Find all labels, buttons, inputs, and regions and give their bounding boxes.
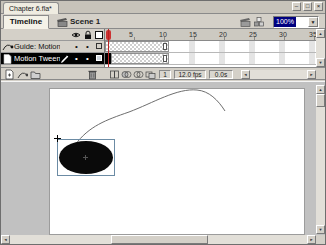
- timeline-status-bar: 1 12.0 fps 0.0s ◄ ►: [1, 67, 325, 80]
- scroll-up-icon[interactable]: ▲: [316, 29, 325, 38]
- close-button[interactable]: ×: [314, 2, 323, 11]
- span-end-marker: [163, 43, 167, 50]
- flash-document-window: Chapter 6.fla* – □ × Timeline Scene 1 10…: [0, 0, 326, 245]
- minimize-button[interactable]: –: [292, 2, 301, 11]
- timeline-scroll-left-icon[interactable]: ◄: [241, 70, 250, 79]
- insert-layer-folder-icon[interactable]: [30, 69, 41, 80]
- delete-layer-trash-icon[interactable]: [87, 69, 98, 80]
- timeline-scroll-right-icon[interactable]: ►: [307, 70, 316, 79]
- transform-center-icon[interactable]: [83, 155, 88, 160]
- outline-column-icon[interactable]: [94, 30, 104, 40]
- layer-name[interactable]: Motion Tween: [14, 54, 60, 63]
- scroll-right-icon[interactable]: ►: [307, 235, 316, 244]
- timeline-horizontal-scrollbar[interactable]: [250, 70, 307, 79]
- restore-button[interactable]: □: [303, 2, 312, 11]
- layer-lock-dot[interactable]: •: [82, 54, 93, 64]
- span-end-marker: [163, 55, 167, 62]
- zoom-value[interactable]: 100%: [274, 17, 296, 27]
- document-tab-bar: Chapter 6.fla* – □ ×: [1, 1, 325, 14]
- layer-row-motion-tween[interactable]: Motion Tween • •: [1, 53, 104, 65]
- ruler-number: 15: [189, 31, 197, 38]
- layer-outline-swatch[interactable]: [93, 42, 104, 52]
- guide-frame-span[interactable]: [105, 41, 169, 52]
- motion-tween-span[interactable]: [111, 53, 169, 64]
- scene-clapper-icon: [57, 17, 68, 27]
- scroll-left-icon[interactable]: ◄: [1, 235, 10, 244]
- guide-layer-frames[interactable]: [105, 41, 316, 53]
- timeline-vertical-scrollbar[interactable]: ▲ ▼: [316, 29, 325, 67]
- window-controls: – □ ×: [292, 2, 323, 11]
- lock-column-icon[interactable]: [83, 30, 93, 40]
- stage-horizontal-scrollbar[interactable]: ◄ ►: [1, 235, 316, 244]
- horizontal-scroll-thumb[interactable]: [111, 235, 208, 244]
- registration-point-icon: [54, 135, 61, 142]
- scrollbar-corner: [316, 235, 325, 244]
- center-frame-icon[interactable]: [109, 69, 120, 80]
- layer-visibility-dot[interactable]: •: [71, 54, 82, 64]
- document-tab[interactable]: Chapter 6.fla*: [3, 2, 59, 14]
- zoom-control[interactable]: 100% ▼: [273, 16, 319, 28]
- elapsed-time-indicator: 0.0s: [209, 70, 233, 79]
- stage-work-area: ▲ ▼ ◄ ►: [1, 81, 325, 244]
- layer-panel: Guide: Motion ... • • Motion Tween • •: [1, 29, 105, 67]
- playhead[interactable]: [108, 29, 109, 67]
- show-hide-column-icon[interactable]: [71, 30, 81, 40]
- layer-outline-swatch[interactable]: [93, 54, 104, 64]
- onion-skin-outlines-icon[interactable]: [133, 69, 144, 80]
- ruler-number: 30: [279, 31, 287, 38]
- scroll-down-icon[interactable]: ▼: [316, 225, 325, 234]
- frames-area: 15101520253035: [105, 29, 316, 67]
- ruler-number: 20: [219, 31, 227, 38]
- scene-name[interactable]: Scene 1: [70, 17, 100, 26]
- zoom-dropdown-arrow[interactable]: ▼: [308, 17, 318, 27]
- ruler-number: 10: [159, 31, 167, 38]
- vertical-scroll-thumb[interactable]: [316, 94, 325, 107]
- timeline-header: Timeline Scene 1 100% ▼: [1, 14, 325, 29]
- layer-lock-dot[interactable]: •: [82, 42, 93, 52]
- layer-row-guide[interactable]: Guide: Motion ... • •: [1, 41, 104, 53]
- ruler-number: 5: [129, 31, 133, 38]
- current-frame-indicator: 1: [159, 70, 171, 79]
- edit-scene-icon[interactable]: [240, 17, 251, 27]
- pencil-icon: [60, 54, 71, 64]
- layer-visibility-dot[interactable]: •: [71, 42, 82, 52]
- tween-layer-frames[interactable]: [105, 53, 316, 65]
- layer-name[interactable]: Guide: Motion ...: [14, 42, 60, 51]
- scroll-down-icon[interactable]: ▼: [316, 58, 325, 67]
- layer-page-icon: [1, 54, 14, 64]
- edit-symbols-icon[interactable]: [254, 17, 265, 27]
- frame-rate-indicator[interactable]: 12.0 fps: [174, 70, 206, 79]
- ruler-number: 25: [249, 31, 257, 38]
- insert-layer-icon[interactable]: [4, 69, 15, 80]
- stage-vertical-scrollbar[interactable]: ▲ ▼: [316, 85, 325, 234]
- motion-guide-layer-icon: [1, 42, 14, 51]
- frame-ruler[interactable]: 15101520253035: [105, 29, 316, 41]
- layer-column-header: [1, 29, 104, 41]
- document-title: Chapter 6.fla*: [9, 5, 52, 12]
- timeline-panel-tab[interactable]: Timeline: [3, 15, 49, 29]
- edit-bar: Scene 1 100% ▼: [51, 15, 325, 28]
- edit-multiple-frames-icon[interactable]: [145, 69, 156, 80]
- add-motion-guide-icon[interactable]: [17, 69, 28, 80]
- scroll-up-icon[interactable]: ▲: [316, 85, 325, 94]
- onion-skin-icon[interactable]: [121, 69, 132, 80]
